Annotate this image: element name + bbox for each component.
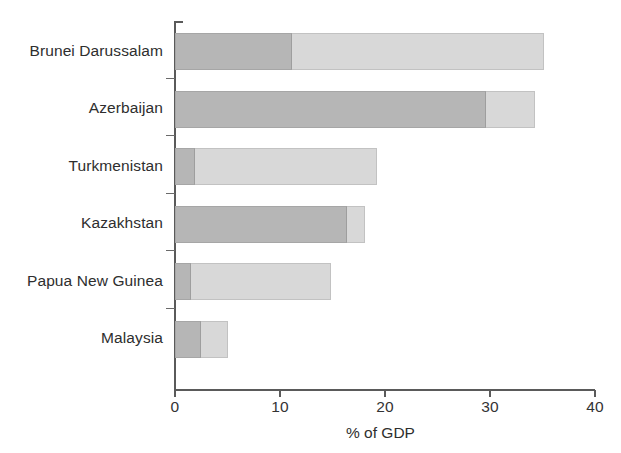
- x-axis-title-text: % of GDP: [346, 424, 415, 441]
- y-axis-tick: [166, 135, 175, 136]
- bar-segment-dark-segment: [175, 33, 292, 70]
- category-label: Turkmenistan: [68, 157, 163, 175]
- horizontal-stacked-bar-chart: 010203040 Brunei DarussalamAzerbaijanTur…: [0, 0, 621, 453]
- x-axis-title: % of GDP: [0, 424, 621, 442]
- y-axis-tick: [166, 193, 175, 194]
- bar-segment-dark-segment: [175, 91, 486, 128]
- category-label: Azerbaijan: [89, 99, 163, 117]
- category-label: Malaysia: [101, 329, 163, 347]
- x-axis-tick: [279, 390, 281, 397]
- x-axis-tick-label: 30: [481, 398, 499, 416]
- x-axis-tick-label: 0: [171, 398, 180, 416]
- y-axis-tick: [166, 250, 175, 251]
- x-axis-tick: [489, 390, 491, 397]
- x-axis-tick: [174, 390, 176, 397]
- category-label: Kazakhstan: [81, 214, 163, 232]
- y-axis-tick: [166, 78, 175, 79]
- bar-segment-dark-segment: [175, 263, 191, 300]
- bar-segment-dark-segment: [175, 321, 201, 358]
- bar-segment-light-segment: [195, 148, 377, 185]
- bar-segment-dark-segment: [175, 148, 195, 185]
- bar-segment-dark-segment: [175, 206, 347, 243]
- category-label: Brunei Darussalam: [29, 42, 163, 60]
- x-axis-tick: [594, 390, 596, 397]
- bar-segment-light-segment: [201, 321, 227, 358]
- bar-segment-light-segment: [486, 91, 535, 128]
- y-axis-tick: [166, 308, 175, 309]
- x-axis-tick-label: 20: [376, 398, 394, 416]
- x-axis-tick-label: 10: [271, 398, 289, 416]
- bar-segment-light-segment: [292, 33, 544, 70]
- bar-segment-light-segment: [191, 263, 332, 300]
- bar-segment-light-segment: [347, 206, 365, 243]
- x-axis-tick: [384, 390, 386, 397]
- x-axis-tick-label: 40: [586, 398, 604, 416]
- category-label: Papua New Guinea: [27, 272, 163, 290]
